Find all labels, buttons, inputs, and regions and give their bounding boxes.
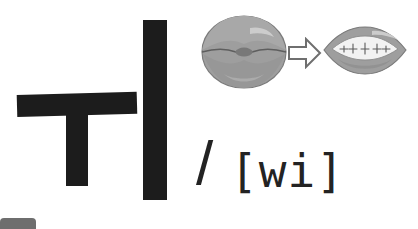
jamo-stroke-i-vertical (143, 20, 167, 200)
pronunciation-card: / [wi] (0, 0, 418, 229)
bottom-left-chip[interactable] (0, 218, 36, 229)
phonetic-slash: / (196, 132, 213, 194)
jamo-stroke-u-vertical (66, 112, 88, 186)
transition-arrow-icon (287, 37, 322, 69)
phonetic-transcription: / [wi] (196, 132, 411, 212)
mouth-diagram-spread-lips (322, 26, 408, 76)
phonetic-ipa-text: [wi] (230, 146, 345, 196)
mouth-diagram-rounded-lips (198, 14, 290, 90)
